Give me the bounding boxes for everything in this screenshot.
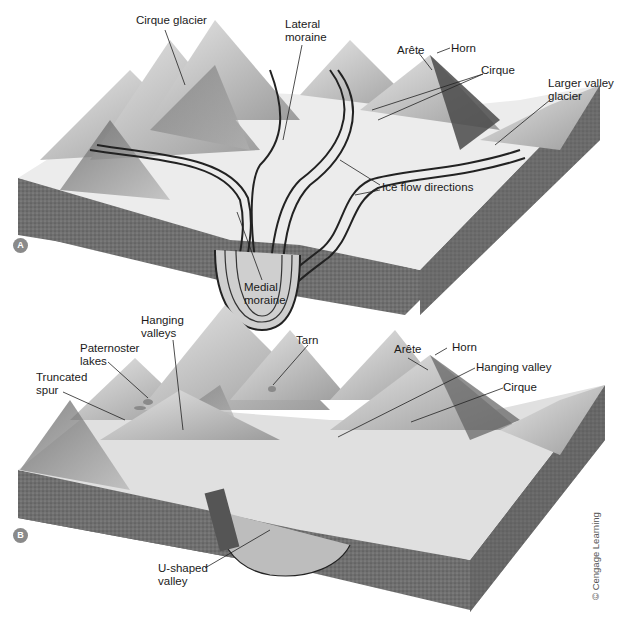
copyright-credit: © Cengage Learning [590, 512, 601, 600]
label-cirque-glacier: Cirque glacier [136, 14, 207, 27]
label-cirque-b: Cirque [503, 381, 537, 394]
glacial-landforms-figure: Cirque glacier Lateral moraine Arête Hor… [0, 0, 622, 618]
panel-b-badge: B [13, 528, 28, 543]
label-truncated-spur: Truncated spur [36, 371, 87, 397]
panel-a-badge: A [13, 238, 28, 253]
label-arete-b: Arête [394, 343, 422, 356]
figure-artwork [0, 0, 622, 618]
label-arete-a: Arête [397, 44, 425, 57]
label-hanging-valley: Hanging valley [476, 361, 551, 374]
label-lateral-moraine: Lateral moraine [285, 18, 327, 44]
label-horn-b: Horn [452, 341, 477, 354]
label-hanging-valleys: Hanging valleys [141, 314, 184, 340]
label-cirque-a: Cirque [481, 64, 515, 77]
label-larger-valley-glacier: Larger valley glacier [548, 77, 614, 103]
label-medial-moraine: Medial moraine [244, 281, 286, 307]
label-paternoster-lakes: Paternoster lakes [80, 342, 139, 368]
label-horn-a: Horn [451, 42, 476, 55]
label-ice-flow-directions: Ice flow directions [382, 181, 473, 194]
label-u-shaped-valley: U-shaped valley [158, 562, 208, 588]
label-tarn: Tarn [296, 334, 318, 347]
